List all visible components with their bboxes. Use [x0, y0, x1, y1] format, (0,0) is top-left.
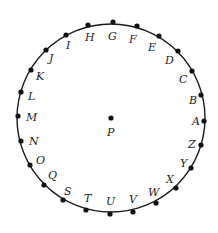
point-dot [134, 23, 139, 28]
point-label: G [108, 30, 117, 43]
point-i: I [63, 32, 71, 52]
point-dot [15, 113, 20, 118]
point-l: L [18, 89, 35, 103]
point-e: E [147, 33, 162, 54]
point-dot [173, 185, 178, 190]
point-m: M [15, 111, 38, 124]
point-dot [43, 47, 48, 52]
point-label: L [27, 90, 35, 103]
point-g: G [108, 19, 117, 43]
point-label: M [25, 111, 38, 124]
point-x: X [165, 173, 179, 191]
point-y: Y [180, 157, 194, 171]
point-k: K [28, 67, 45, 83]
point-dot [60, 197, 65, 202]
point-z: Z [187, 138, 204, 151]
point-label: T [84, 192, 93, 205]
point-label: Z [187, 138, 196, 151]
point-label: S [64, 185, 72, 198]
point-label: X [165, 173, 175, 186]
point-label: F [128, 33, 137, 46]
point-dot [153, 200, 158, 205]
center-dot [108, 115, 113, 120]
point-d: D [164, 48, 181, 67]
point-label: A [191, 115, 200, 128]
point-label: O [36, 154, 45, 167]
point-dot [156, 33, 161, 38]
point-label: D [164, 54, 174, 67]
point-w: W [148, 186, 161, 206]
point-q: Q [41, 169, 57, 188]
point-dot [189, 68, 194, 73]
point-dot [107, 211, 112, 216]
point-dot [27, 162, 32, 167]
point-label: Y [180, 157, 189, 170]
point-dot [110, 19, 115, 24]
point-label: Q [48, 169, 57, 182]
point-dot [198, 142, 203, 147]
point-o: O [27, 154, 45, 168]
point-label: C [179, 73, 188, 86]
point-b: B [188, 92, 204, 107]
center-label: P [106, 126, 115, 139]
point-label: U [106, 195, 116, 208]
point-c: C [179, 68, 195, 86]
point-label: B [188, 94, 197, 107]
point-dot [18, 89, 23, 94]
circle-diagram: GFEDCBAZYXWVUTSQONMLKJIH P [0, 0, 218, 233]
point-u: U [106, 195, 116, 217]
point-label: H [84, 31, 95, 44]
point-label: W [148, 186, 161, 199]
point-dot [85, 22, 90, 27]
point-dot [28, 67, 33, 72]
point-label: V [129, 193, 138, 206]
point-dot [41, 182, 46, 187]
point-dot [201, 118, 206, 123]
point-dot [83, 207, 88, 212]
point-dot [198, 92, 203, 97]
point-label: K [35, 70, 45, 83]
point-dot [63, 32, 68, 37]
point-label: J [47, 52, 54, 65]
point-dot [130, 209, 135, 214]
point-v: V [129, 193, 138, 215]
point-label: N [28, 135, 39, 148]
point-dot [18, 138, 23, 143]
point-dot [188, 165, 193, 170]
point-dot [175, 48, 180, 53]
point-label: E [147, 41, 156, 54]
point-label: I [65, 39, 71, 52]
point-j: J [43, 47, 54, 65]
center-point: P [106, 115, 115, 139]
